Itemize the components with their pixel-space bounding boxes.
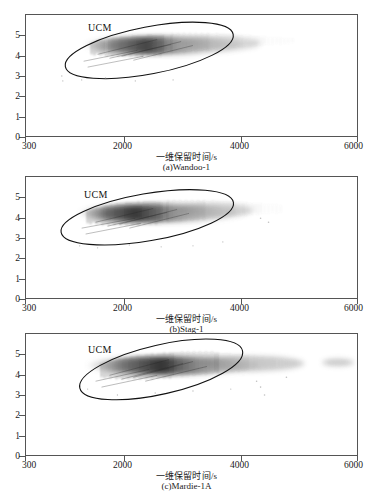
x-tick-label-6000: 6000 bbox=[344, 460, 363, 470]
plot-canvas-c bbox=[26, 334, 357, 455]
y-tick-label-5: 5 bbox=[4, 31, 20, 40]
y-tick-label-2: 2 bbox=[4, 411, 20, 420]
panel-caption-c: (c)Mardie-1A bbox=[0, 481, 373, 491]
y-tick-label-2: 2 bbox=[4, 92, 20, 101]
y-tick-label-1: 1 bbox=[4, 113, 20, 122]
y-tick-label-5: 5 bbox=[4, 193, 20, 202]
x-tick-label-300: 300 bbox=[22, 460, 36, 470]
x-tick-label-2000: 2000 bbox=[113, 141, 132, 151]
y-tick-label-0: 0 bbox=[4, 133, 20, 142]
sparse-points bbox=[79, 218, 269, 249]
y-tick-label-4: 4 bbox=[4, 52, 20, 61]
ucm-annotation-b: UCM bbox=[84, 190, 108, 200]
x-tick-label-300: 300 bbox=[22, 141, 36, 151]
chart-panel-b: UCM 0 1 2 3 4 5 300 2000 4000 6000 一维保留时… bbox=[0, 162, 373, 334]
x-tick-label-6000: 6000 bbox=[344, 303, 363, 313]
plot-canvas-a bbox=[26, 15, 357, 136]
y-tick-label-4: 4 bbox=[4, 214, 20, 223]
plot-frame-a: UCM bbox=[25, 14, 358, 137]
y-tick-label-0: 0 bbox=[4, 452, 20, 461]
y-tick-label-3: 3 bbox=[4, 391, 20, 400]
x-tick-label-2000: 2000 bbox=[113, 303, 132, 313]
sparse-points bbox=[87, 376, 287, 395]
x-axis-title-a: 一维保留时间/s bbox=[0, 152, 373, 162]
plot-canvas-b bbox=[26, 177, 357, 298]
x-tick-label-300: 300 bbox=[22, 303, 36, 313]
chart-panel-a: UCM 0 1 2 3 4 5 300 2000 4000 6000 一维保留时… bbox=[0, 0, 373, 172]
plot-frame-c: UCM bbox=[25, 333, 358, 456]
y-tick-label-5: 5 bbox=[4, 350, 20, 359]
x-axis-title-c: 一维保留时间/s bbox=[0, 471, 373, 481]
x-tick-label-4000: 4000 bbox=[230, 141, 249, 151]
plot-frame-b: UCM bbox=[25, 176, 358, 299]
y-tick-label-1: 1 bbox=[4, 432, 20, 441]
y-tick-label-0: 0 bbox=[4, 295, 20, 304]
ucm-trailing-blob bbox=[177, 204, 253, 218]
y-tick-label-1: 1 bbox=[4, 275, 20, 284]
y-tick-label-3: 3 bbox=[4, 234, 20, 243]
x-tick-label-6000: 6000 bbox=[344, 141, 363, 151]
ucm-annotation-c: UCM bbox=[88, 345, 112, 355]
x-tick-label-4000: 4000 bbox=[230, 460, 249, 470]
chart-panel-c: UCM 0 1 2 3 4 5 300 2000 4000 6000 一维保留时… bbox=[0, 319, 373, 486]
far-right-blob bbox=[322, 359, 354, 367]
y-tick-label-3: 3 bbox=[4, 72, 20, 81]
x-tick-label-4000: 4000 bbox=[230, 303, 249, 313]
y-tick-label-2: 2 bbox=[4, 254, 20, 263]
y-tick-label-4: 4 bbox=[4, 371, 20, 380]
x-tick-label-2000: 2000 bbox=[113, 460, 132, 470]
ucm-annotation-a: UCM bbox=[88, 23, 112, 33]
ucm-trailing-blob bbox=[201, 356, 304, 372]
